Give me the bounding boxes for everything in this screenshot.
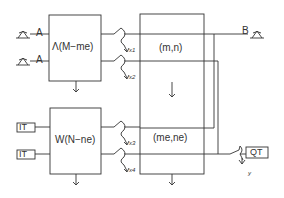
input-it-label-2: IT <box>19 150 27 159</box>
center-upper-label: (m,n) <box>159 43 182 53</box>
switch-label-y: y <box>248 170 251 176</box>
switch-label-x3: x3 <box>129 140 135 146</box>
input-it-label-1: IT <box>19 123 27 132</box>
input-a-label-2: A <box>36 55 43 65</box>
switch-label-x4: x4 <box>129 167 135 173</box>
source-icon <box>16 58 30 65</box>
output-qt-label: QT <box>250 148 263 157</box>
w-box-label: W(N−ne) <box>55 135 95 145</box>
switch-label-x1: x1 <box>129 47 135 53</box>
source-icon <box>16 31 30 38</box>
sink-icon <box>250 31 264 38</box>
input-a-label-1: A <box>36 28 43 38</box>
switch-label-x2: x2 <box>129 74 135 80</box>
output-b-label: B <box>242 26 249 36</box>
center-lower-label: (me,ne) <box>153 133 187 143</box>
lambda-box-label: Λ(M−me) <box>52 42 93 52</box>
